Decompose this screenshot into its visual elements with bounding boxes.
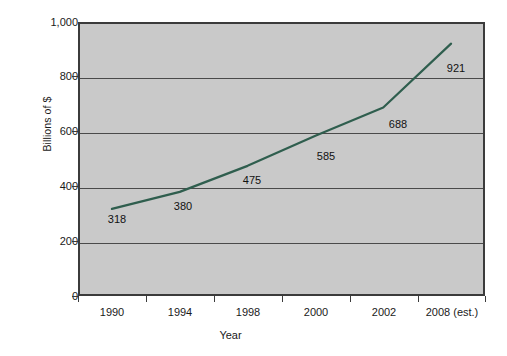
y-axis: Billions of $ 1,000 800 600 400 200 0 bbox=[0, 0, 78, 356]
gridline-600 bbox=[80, 133, 483, 134]
data-label-1998: 475 bbox=[243, 175, 261, 186]
y-tick-label-1000: 1,000 bbox=[32, 17, 78, 28]
data-label-1994: 380 bbox=[174, 201, 192, 212]
x-tick-label-2002: 2002 bbox=[372, 306, 396, 318]
x-tick-mark-0 bbox=[78, 296, 79, 302]
x-axis-title-text: Year bbox=[219, 329, 241, 341]
x-tick-label-1998: 1998 bbox=[236, 306, 260, 318]
gridline-800 bbox=[80, 78, 483, 79]
data-label-2000: 585 bbox=[317, 151, 335, 162]
data-label-2002: 688 bbox=[389, 119, 407, 130]
gridline-400 bbox=[80, 188, 483, 189]
x-tick-mark-2 bbox=[214, 296, 215, 302]
y-tick-mark-400 bbox=[72, 186, 78, 187]
line-chart-figure: Billions of $ 1,000 800 600 400 200 0 19… bbox=[0, 0, 507, 356]
x-axis-title: Year bbox=[0, 329, 507, 341]
x-tick-mark-6 bbox=[485, 296, 486, 302]
plot-area bbox=[78, 22, 485, 296]
data-label-1990: 318 bbox=[108, 214, 126, 225]
data-label-2008: 921 bbox=[447, 63, 465, 74]
x-tick-label-2000: 2000 bbox=[304, 306, 328, 318]
x-tick-mark-3 bbox=[282, 296, 283, 302]
y-tick-mark-200 bbox=[72, 241, 78, 242]
x-tick-mark-1 bbox=[146, 296, 147, 302]
x-tick-label-1994: 1994 bbox=[168, 306, 192, 318]
y-tick-mark-800 bbox=[72, 76, 78, 77]
x-tick-label-1990: 1990 bbox=[100, 306, 124, 318]
y-axis-title: Billions of $ bbox=[41, 64, 53, 184]
x-tick-label-2008-est: 2008 (est.) bbox=[426, 306, 479, 318]
gridline-200 bbox=[80, 243, 483, 244]
x-tick-mark-4 bbox=[350, 296, 351, 302]
y-tick-mark-600 bbox=[72, 131, 78, 132]
x-tick-mark-5 bbox=[418, 296, 419, 302]
